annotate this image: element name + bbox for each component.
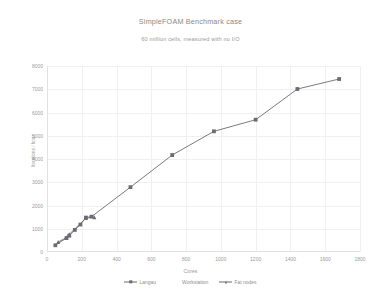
x-axis-tick-label: 800	[182, 256, 190, 262]
data-point-marker	[254, 118, 258, 122]
legend-label: Workstation	[182, 280, 208, 285]
data-point-marker	[212, 129, 216, 133]
plot-area: 010002000300040005000600070008000 020040…	[47, 66, 360, 252]
x-axis-tick-label: 200	[78, 256, 86, 262]
x-axis-tick-label: 1600	[320, 256, 331, 262]
data-point-marker	[296, 87, 300, 91]
y-axis-tick-label: 6000	[32, 110, 43, 116]
data-series-layer	[47, 66, 360, 252]
x-axis-tick-label: 1000	[215, 256, 226, 262]
data-point-marker	[56, 240, 60, 244]
legend-item-workstation[interactable]: Workstation	[167, 279, 208, 285]
data-point-marker	[170, 153, 174, 157]
chart-subtitle: 60 million cells, measured with no I/O	[0, 36, 381, 42]
legend-label: Langau	[139, 280, 156, 285]
y-axis-tick-label: 1000	[32, 226, 43, 232]
series-line	[55, 79, 339, 245]
y-axis-tick-label: 5000	[32, 133, 43, 139]
legend-marker-none-icon	[167, 279, 180, 285]
legend-marker-triangle-icon	[219, 279, 232, 285]
x-axis-tick-label: 1200	[250, 256, 261, 262]
gridline-vertical	[360, 66, 361, 252]
chart-root: SimpleFOAM Benchmark case 60 million cel…	[0, 0, 381, 301]
x-axis-tick-label: 1400	[285, 256, 296, 262]
legend-marker-square-icon	[124, 279, 137, 285]
x-axis-tick-label: 400	[112, 256, 120, 262]
data-point-marker	[129, 185, 133, 189]
x-axis-tick-label: 1800	[354, 256, 365, 262]
y-axis-tick-label: 4000	[32, 156, 43, 162]
y-axis-tick-label: 0	[40, 249, 43, 255]
x-axis-tick-label: 600	[147, 256, 155, 262]
x-axis-title: Cores	[0, 268, 381, 274]
y-axis-tick-label: 7000	[32, 86, 43, 92]
y-axis-tick-label: 3000	[32, 179, 43, 185]
legend-label: Fat nodes	[234, 280, 256, 285]
x-axis-tick-label: 0	[46, 256, 49, 262]
legend-item-fat-nodes[interactable]: Fat nodes	[219, 279, 256, 285]
chart-legend: LangauWorkstationFat nodes	[0, 279, 381, 285]
chart-title: SimpleFOAM Benchmark case	[0, 17, 381, 26]
data-point-marker	[337, 77, 341, 81]
y-axis-tick-label: 8000	[32, 63, 43, 69]
series-langau	[53, 77, 341, 247]
y-axis-tick-label: 2000	[32, 203, 43, 209]
legend-item-langau[interactable]: Langau	[124, 279, 156, 285]
